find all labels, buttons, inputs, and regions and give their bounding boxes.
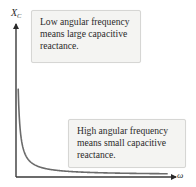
y-axis-subscript: C bbox=[17, 12, 21, 19]
callout-line: High angular frequency bbox=[77, 125, 180, 137]
x-axis-label: ω bbox=[177, 170, 183, 180]
callout-line: means small capacitive bbox=[77, 137, 180, 149]
callout-line: reactance. bbox=[77, 149, 180, 161]
callout-line: means large capacitive bbox=[40, 28, 135, 40]
callout-high-frequency: High angular frequency means small capac… bbox=[68, 119, 186, 168]
callout-low-frequency: Low angular frequency means large capaci… bbox=[31, 10, 141, 63]
callout-line: reactance. bbox=[40, 40, 135, 52]
y-axis-label: XC bbox=[11, 7, 21, 19]
callout-line: Low angular frequency bbox=[40, 16, 135, 28]
reactance-diagram: XC ω Low angular frequency means large c… bbox=[0, 0, 196, 187]
